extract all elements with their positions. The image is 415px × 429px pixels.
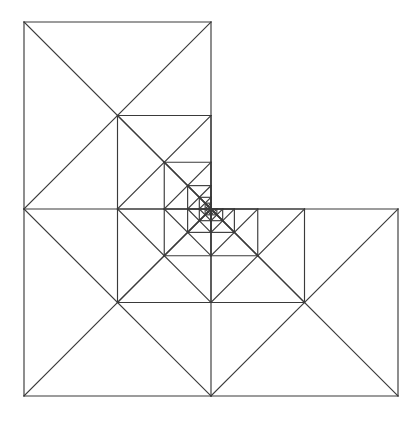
recursive-l-tromino-figure: Recursive L-tromino dissection — [0, 0, 415, 429]
figure-canvas: Recursive L-tromino dissection — [0, 0, 415, 429]
line-group — [24, 22, 398, 396]
